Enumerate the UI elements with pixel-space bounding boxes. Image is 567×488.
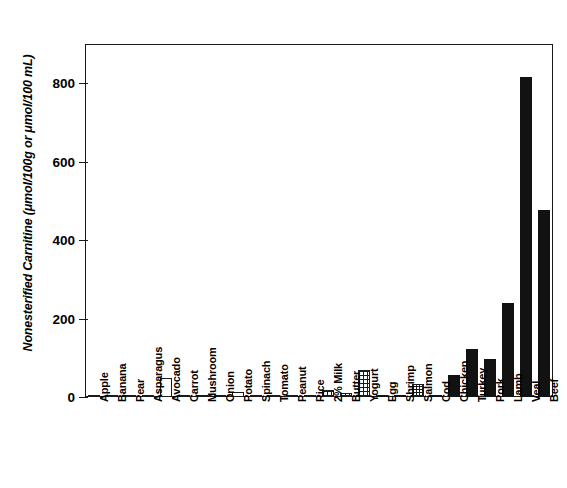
y-axis-tick-labels: 0200400600800: [30, 0, 75, 488]
x-tick-label-veal: Veal: [530, 381, 542, 402]
x-tick-label-text: Spinach: [260, 361, 272, 402]
carnitine-bar-chart: Nonesterified Carnitine (μmol/100g or μm…: [0, 0, 567, 488]
x-tick-label-potato: Potato: [242, 369, 254, 402]
x-tick-label-tomato: Tomato: [278, 364, 290, 402]
x-tick-label-text: Veal: [530, 381, 542, 402]
x-tick-label-avocado: Avocado: [170, 357, 182, 402]
x-tick-label-rice: Rice: [314, 380, 326, 402]
x-tick-label-text: Shrimp: [404, 365, 416, 402]
x-tick-label-pork: Pork: [494, 378, 506, 402]
x-tick-label-beef: Beef: [548, 379, 560, 402]
x-tick-label-text: Butter: [350, 371, 362, 402]
x-tick-label-text: Peanut: [296, 367, 308, 402]
y-tick-label: 0: [35, 390, 75, 405]
x-tick-label-lamb: Lamb: [512, 373, 524, 402]
x-tick-label-text: Apple: [98, 372, 110, 402]
x-tick-label-text: Mushroom: [206, 347, 218, 402]
x-tick-label-text: Avocado: [170, 357, 182, 402]
x-tick-label-text: Pear: [134, 379, 146, 402]
x-tick-label-pear: Pear: [134, 379, 146, 402]
x-tick-label-text: Banana: [116, 363, 128, 402]
x-tick-label-text: Pork: [494, 378, 506, 402]
x-tick-label-text: Potato: [242, 369, 254, 402]
x-tick-label-onion: Onion: [224, 371, 236, 402]
x-tick-label-text: Rice: [314, 380, 326, 402]
bar-veal: [520, 77, 531, 397]
x-tick-label-text: Salmon: [422, 363, 434, 402]
x-tick-label-text: Tomato: [278, 364, 290, 402]
x-tick-label-banana: Banana: [116, 363, 128, 402]
x-tick-label-text: Cod: [440, 381, 452, 402]
x-tick-label-mushroom: Mushroom: [206, 347, 218, 402]
y-tick-label: 400: [35, 233, 75, 248]
x-tick-label-egg: Egg: [386, 382, 398, 402]
x-tick-label-apple: Apple: [98, 372, 110, 402]
x-tick-label-text: Asparagus: [152, 347, 164, 402]
x-tick-label-carrot: Carrot: [188, 370, 200, 402]
x-tick-label-cod: Cod: [440, 381, 452, 402]
x-tick-label-2-milk: 2% Milk: [332, 363, 344, 402]
bar-beef: [538, 210, 549, 397]
x-axis-tick-labels: AppleBananaPearAsparagusAvocadoCarrotMus…: [85, 400, 553, 488]
bar-series: [85, 44, 553, 397]
x-tick-label-peanut: Peanut: [296, 367, 308, 402]
x-tick-label-text: 2% Milk: [332, 363, 344, 402]
x-tick-label-text: Carrot: [188, 370, 200, 402]
y-tick-mark: [79, 397, 88, 398]
x-tick-label-yogurt: Yogurt: [368, 369, 380, 402]
x-tick-label-text: Yogurt: [368, 369, 380, 402]
x-tick-label-spinach: Spinach: [260, 361, 272, 402]
x-tick-label-text: Turkey: [476, 368, 488, 402]
x-tick-label-asparagus: Asparagus: [152, 347, 164, 402]
y-tick-label: 800: [35, 76, 75, 91]
x-tick-label-shrimp: Shrimp: [404, 365, 416, 402]
x-tick-label-turkey: Turkey: [476, 368, 488, 402]
y-tick-label: 200: [35, 311, 75, 326]
x-tick-label-text: Onion: [224, 371, 236, 402]
x-tick-label-text: Chicken: [458, 361, 470, 402]
x-tick-label-butter: Butter: [350, 371, 362, 402]
x-tick-label-salmon: Salmon: [422, 363, 434, 402]
x-tick-label-text: Lamb: [512, 373, 524, 402]
x-tick-label-text: Beef: [548, 379, 560, 402]
x-tick-label-chicken: Chicken: [458, 361, 470, 402]
y-tick-label: 600: [35, 154, 75, 169]
x-tick-label-text: Egg: [386, 382, 398, 402]
